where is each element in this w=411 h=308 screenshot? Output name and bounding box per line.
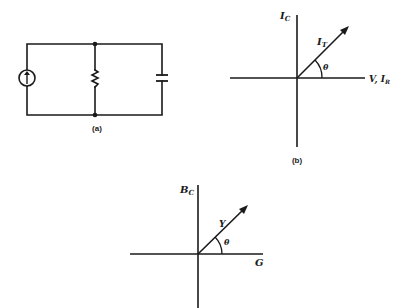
label-ic: IC	[279, 10, 291, 23]
label-it: IT	[316, 36, 328, 49]
junction-dot-top	[93, 42, 98, 47]
angle-arc-icon	[315, 60, 322, 78]
capacitor-icon	[156, 75, 168, 81]
label-bc: BC	[179, 184, 194, 197]
circuit-diagram: (a)	[19, 42, 168, 133]
admittance-diagram: BC Y θ G	[130, 184, 264, 308]
label-g: G	[255, 257, 264, 268]
caption-b: (b)	[292, 156, 303, 165]
angle-arc-icon	[215, 237, 222, 254]
junction-dot-bottom	[93, 113, 98, 118]
current-phasor-diagram: IC IT θ V, IR (b)	[230, 10, 390, 165]
caption-a: (a)	[92, 124, 102, 133]
label-theta-b: θ	[323, 62, 329, 72]
figure-canvas: (a) IC IT θ V, IR (b) BC Y θ G	[0, 0, 411, 308]
resistor-icon	[92, 70, 98, 87]
current-source-icon	[19, 70, 35, 86]
label-theta-c: θ	[224, 237, 230, 247]
label-v-ir: V, IR	[369, 74, 390, 85]
